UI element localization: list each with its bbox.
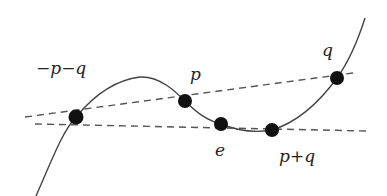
label-p-plus-q: p+q	[279, 146, 315, 166]
cubic-curve	[36, 18, 365, 196]
point-neg-p-q	[69, 110, 84, 125]
point-q	[330, 71, 344, 85]
point-p-plus-q	[265, 123, 279, 137]
elliptic-curve-diagram: −p−q p e p+q q	[0, 0, 387, 196]
label-q: q	[322, 40, 333, 60]
label-neg-p-q: −p−q	[36, 58, 86, 78]
dashed-line-e	[35, 124, 367, 131]
label-p: p	[190, 64, 201, 84]
label-e: e	[215, 140, 225, 160]
point-e	[214, 117, 228, 131]
point-p	[178, 94, 192, 108]
